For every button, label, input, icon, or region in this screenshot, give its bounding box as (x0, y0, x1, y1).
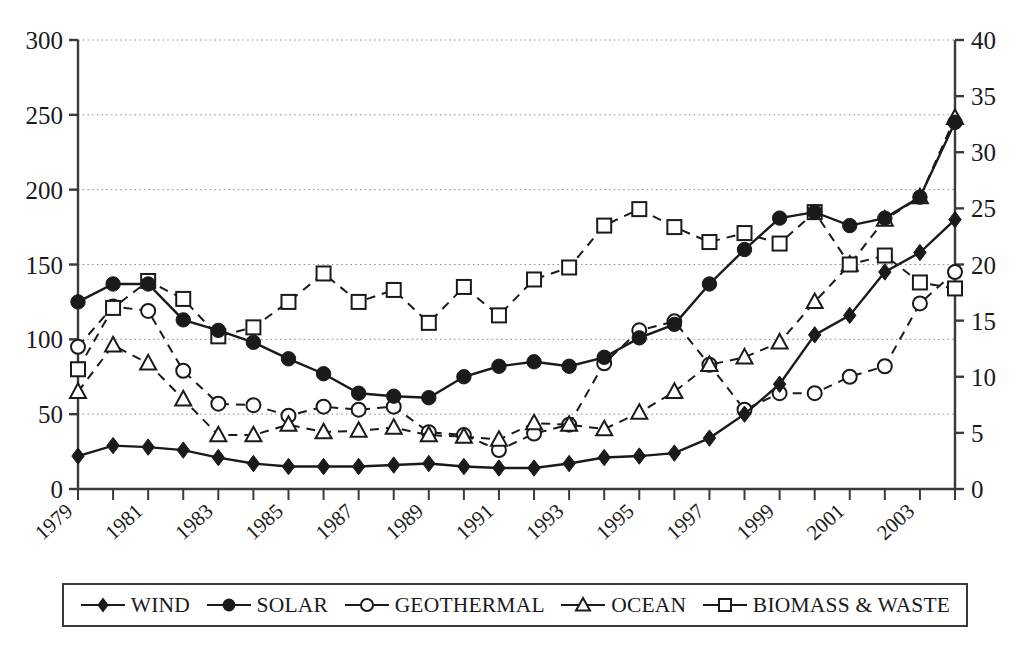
data-point-marker (177, 442, 189, 458)
data-point-marker (493, 460, 505, 476)
legend-item-biomass-waste[interactable]: BIOMASS & WASTE (702, 593, 950, 618)
data-point-marker (807, 205, 821, 219)
legend-marker-open-square (702, 594, 748, 616)
x-axis-tick-label: 1991 (451, 499, 498, 545)
chart-legend: WIND SOLAR GEOTHERMAL OCEAN BIOMASS & WA… (62, 583, 968, 627)
left-axis-tick-label: 300 (26, 27, 64, 54)
legend-label: SOLAR (257, 593, 328, 618)
legend-label: GEOTHERMAL (395, 593, 545, 618)
legend-label: WIND (131, 593, 190, 618)
data-point-marker (422, 391, 436, 405)
data-point-marker (316, 367, 330, 381)
data-point-marker (352, 295, 366, 309)
series-ocean (70, 109, 963, 445)
data-point-marker (176, 292, 190, 306)
left-axis-tick-label: 150 (26, 252, 64, 279)
line-chart-svg: 0501001502002503000510152025303540197919… (0, 0, 1033, 578)
data-point-marker (176, 313, 190, 327)
series-line (78, 209, 955, 369)
data-point-marker (843, 370, 857, 384)
data-point-marker (457, 370, 471, 384)
x-axis-tick-label: 1995 (591, 499, 638, 545)
data-point-marker (106, 301, 120, 315)
x-axis-tick-label: 1983 (170, 499, 217, 545)
data-point-marker (458, 458, 470, 474)
series-line (78, 118, 955, 440)
legend-item-ocean[interactable]: OCEAN (560, 593, 686, 618)
data-point-marker (211, 323, 225, 337)
data-point-marker (878, 211, 892, 225)
left-axis-tick-label: 50 (38, 401, 63, 428)
data-point-marker (703, 430, 715, 446)
data-point-marker (388, 457, 400, 473)
data-point-marker (948, 281, 962, 295)
x-axis-tick-label: 1989 (381, 499, 428, 545)
series-line (78, 122, 955, 397)
data-point-marker (737, 349, 753, 364)
data-point-marker (176, 364, 190, 378)
right-axis-tick-label: 40 (971, 27, 996, 54)
data-point-marker (141, 277, 155, 291)
chart-plot-area: 0501001502002503000510152025303540197919… (0, 0, 1033, 578)
data-point-marker (140, 355, 156, 370)
data-point-marker (632, 331, 646, 345)
data-point-marker (107, 437, 119, 453)
data-point-marker (175, 391, 191, 406)
legend-item-solar[interactable]: SOLAR (206, 593, 328, 618)
right-axis-tick-label: 0 (971, 476, 984, 503)
data-point-marker (773, 237, 787, 251)
data-point-marker (737, 242, 751, 256)
legend-item-wind[interactable]: WIND (80, 593, 190, 618)
data-point-marker (913, 296, 927, 310)
data-point-marker (596, 421, 612, 436)
data-point-marker (843, 258, 857, 272)
data-point-marker (562, 260, 576, 274)
data-point-marker (772, 211, 786, 225)
data-point-marker (423, 455, 435, 471)
data-point-marker (422, 316, 436, 330)
x-axis-tick-label: 1987 (311, 499, 358, 545)
data-point-marker (913, 275, 927, 289)
data-point-marker (72, 448, 84, 464)
left-axis-tick-label: 250 (26, 102, 64, 129)
data-point-marker (843, 218, 857, 232)
series-solar (71, 115, 962, 405)
x-axis-tick-label: 1997 (662, 499, 709, 545)
data-point-marker (317, 400, 331, 414)
data-point-marker (666, 383, 682, 398)
data-point-marker (528, 460, 540, 476)
data-point-marker (491, 431, 507, 446)
right-axis-tick-label: 35 (971, 83, 996, 110)
legend-item-geothermal[interactable]: GEOTHERMAL (344, 593, 545, 618)
data-point-marker (878, 249, 892, 263)
right-axis-tick-label: 30 (971, 139, 996, 166)
series-wind (72, 211, 961, 476)
data-point-marker (808, 386, 822, 400)
x-axis-tick-label: 1979 (30, 499, 77, 545)
data-point-marker (352, 403, 366, 417)
legend-label: OCEAN (611, 593, 686, 618)
data-point-marker (563, 455, 575, 471)
data-point-marker (210, 427, 226, 442)
data-point-marker (71, 340, 85, 354)
data-point-marker (317, 458, 329, 474)
data-point-marker (352, 458, 364, 474)
data-point-marker (597, 219, 611, 233)
data-point-marker (281, 352, 295, 366)
data-point-marker (878, 359, 892, 373)
chart-page: 0501001502002503000510152025303540197919… (0, 0, 1033, 656)
left-axis-tick-label: 100 (26, 326, 64, 353)
series-geothermal (71, 265, 962, 457)
data-point-marker (527, 272, 541, 286)
x-axis-tick-label: 2003 (872, 499, 919, 545)
data-point-marker (386, 419, 402, 434)
x-axis-tick-label: 1999 (732, 499, 779, 545)
x-axis-tick-label: 1981 (100, 499, 147, 545)
data-point-marker (211, 397, 225, 411)
data-point-marker (527, 355, 541, 369)
data-point-marker (738, 226, 752, 240)
data-point-marker (667, 317, 681, 331)
data-point-marker (492, 308, 506, 322)
data-point-marker (246, 335, 260, 349)
right-axis-tick-label: 15 (971, 308, 996, 335)
